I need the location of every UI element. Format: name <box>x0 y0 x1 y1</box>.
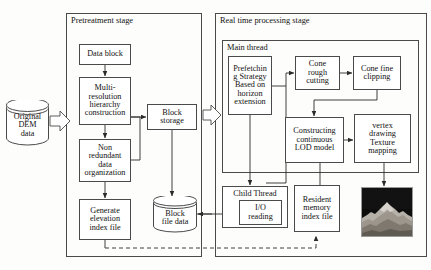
terrain-render-icon <box>362 188 412 236</box>
node-non-redundant-data-organization: Non redundant data organization <box>79 139 131 182</box>
node-io-reading: I/O reading <box>239 200 282 225</box>
terrain-render-preview <box>361 187 413 237</box>
node-prefetching-label: Prefetchin g Strategy Based on horizon e… <box>233 65 267 107</box>
node-resident-memory-label: Resident memory index file <box>301 196 332 221</box>
node-data-block-label: Data block <box>87 50 123 58</box>
node-multi-resolution-label: Multi- resolution hierarchy construction <box>85 84 125 117</box>
diagram-canvas: Pretreatment stage Real time processing … <box>0 0 431 270</box>
group-pretreatment-label: Pretreatment stage <box>71 16 133 25</box>
node-generate-elevation-index-file: Generate elevation index file <box>79 199 131 240</box>
datastore-block-file-data-label: Block file data <box>162 204 189 227</box>
node-block-storage-label: Block storage <box>160 109 184 126</box>
group-realtime-label: Real time processing stage <box>220 16 310 25</box>
node-constructing-lod-label: Constructing continuous LOD model <box>293 127 335 152</box>
node-cone-rough-cutting: Cone rough cutting <box>295 56 340 90</box>
node-constructing-continuous-lod-model: Constructing continuous LOD model <box>285 117 344 163</box>
node-io-reading-label: I/O reading <box>248 204 273 221</box>
node-cone-fine-label: Cone fine clipping <box>361 65 393 82</box>
node-vertex-drawing-label: vertex drawing Texture mapping <box>368 122 397 155</box>
datastore-original-dem-label: Original DEM data <box>14 108 41 138</box>
node-resident-memory-index-file: Resident memory index file <box>294 185 340 232</box>
node-non-redundant-label: Non redundant data organization <box>85 144 126 177</box>
datastore-block-file-data: Block file data <box>152 196 198 234</box>
node-data-block: Data block <box>79 44 131 65</box>
node-generate-index-label: Generate elevation index file <box>89 207 120 232</box>
node-prefetching-strategy: Prefetchin g Strategy Based on horizon e… <box>228 56 272 115</box>
node-multi-resolution-hierarchy-construction: Multi- resolution hierarchy construction <box>79 77 131 125</box>
group-main-thread-label: Main thread <box>227 43 268 52</box>
node-block-storage: Block storage <box>147 104 197 130</box>
datastore-original-dem: Original DEM data <box>5 100 50 146</box>
node-cone-fine-clipping: Cone fine clipping <box>353 56 401 90</box>
node-cone-rough-label: Cone rough cutting <box>306 60 329 85</box>
node-child-thread-label: Child Thread <box>233 188 276 198</box>
node-vertex-drawing-texture-mapping: vertex drawing Texture mapping <box>354 114 411 163</box>
